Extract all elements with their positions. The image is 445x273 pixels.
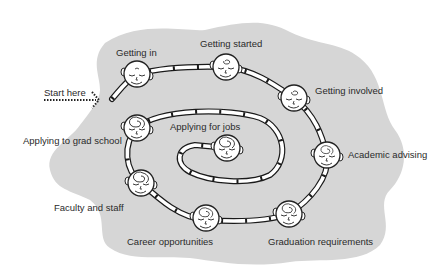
label-faculty-and-staff: Faculty and staff [54, 203, 124, 213]
spiral-diagram: Start here Getting in Getting started Ge… [0, 0, 445, 273]
label-career-opportunities: Career opportunities [127, 237, 213, 247]
label-graduation-requirements: Graduation requirements [268, 237, 373, 247]
label-getting-started: Getting started [200, 39, 262, 49]
label-applying-to-grad-school: Applying to grad school [23, 136, 122, 146]
label-getting-involved: Getting involved [315, 86, 383, 96]
label-academic-advising: Academic advising [348, 150, 427, 160]
label-getting-in: Getting in [116, 48, 157, 58]
label-start-here: Start here [44, 88, 86, 98]
label-applying-for-jobs: Applying for jobs [170, 122, 240, 132]
